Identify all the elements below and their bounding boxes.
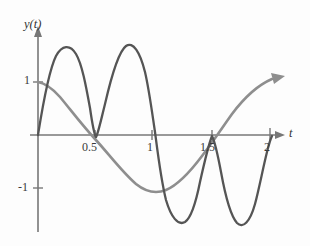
x-axis-arrowhead <box>275 131 285 139</box>
y-axis-label: y(t) <box>24 18 41 31</box>
x-tick-label-2: 2 <box>264 141 270 153</box>
y-tick-label-1: 1 <box>24 74 30 86</box>
curve-slow-arrowhead <box>271 73 285 84</box>
x-axis-label: t <box>289 127 292 140</box>
y-tick-label-neg1: -1 <box>18 181 28 193</box>
chart-figure: y(t) t 1 -1 0.5 1 1.5 2 <box>0 0 310 246</box>
x-tick-label-05: 0.5 <box>82 141 97 153</box>
x-tick-label-15: 1.5 <box>200 141 215 153</box>
x-tick-label-1: 1 <box>147 141 153 153</box>
plot-canvas <box>0 0 310 246</box>
